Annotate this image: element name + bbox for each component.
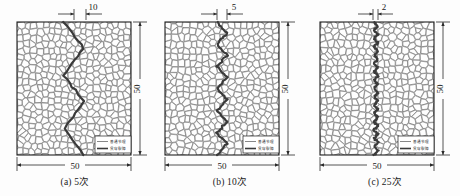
grain-cell	[210, 16, 216, 21]
grain-cell	[402, 155, 409, 161]
grain-cell	[249, 49, 256, 56]
legend-label-crack-b: 贯穿裂隙	[258, 146, 274, 151]
grain-cell	[382, 98, 390, 104]
grain-cell	[247, 16, 254, 22]
grain-cell	[18, 99, 23, 105]
grain-cell	[426, 16, 434, 22]
grain-cell	[235, 16, 241, 22]
grain-cell	[131, 136, 137, 143]
grain-cell	[398, 104, 403, 112]
grain-cell	[422, 155, 428, 161]
grain-cell	[67, 99, 73, 104]
grain-cell	[68, 125, 76, 132]
grain-cell	[260, 53, 265, 59]
grain-cell	[321, 98, 327, 105]
grain-cell	[172, 60, 178, 67]
grain-cell	[131, 112, 137, 119]
grain-cell	[423, 85, 429, 92]
grain-cell	[388, 66, 395, 73]
grain-cell	[159, 54, 164, 59]
grain-cell	[87, 143, 93, 150]
grain-cell	[48, 92, 55, 98]
bottom-dimension-label-c: 50	[373, 161, 383, 171]
grain-cell	[11, 111, 16, 120]
grain-cell	[159, 136, 165, 142]
panel-a: 10 50 50	[0, 0, 150, 196]
grain-cell	[229, 72, 236, 79]
grain-cell	[201, 85, 208, 91]
grain-cell	[162, 131, 170, 137]
grain-cell	[209, 46, 217, 54]
grain-cell	[177, 85, 184, 92]
grain-cell	[81, 28, 86, 34]
grain-cell	[159, 16, 166, 22]
grain-cell	[123, 156, 130, 161]
grain-cell	[99, 155, 107, 161]
grain-cell	[279, 67, 285, 72]
grain-cell	[183, 155, 189, 161]
legend-label-joint-b: 普通节理	[258, 139, 274, 144]
grain-cell	[279, 42, 285, 49]
grain-cell	[197, 105, 204, 112]
grain-cell	[236, 156, 243, 161]
grain-cell	[110, 156, 118, 161]
top-dimension-c	[358, 9, 393, 20]
grain-cell	[352, 105, 359, 110]
grain-cell	[240, 48, 248, 54]
grain-cell	[54, 91, 61, 96]
panel-b: 5 50 50 普通节理	[155, 0, 305, 196]
grain-cell	[179, 155, 185, 161]
grain-cell	[235, 134, 240, 142]
grain-cell	[314, 118, 322, 124]
grain-cell	[47, 157, 56, 162]
grain-cell	[54, 97, 61, 103]
grain-cell	[267, 16, 275, 22]
grain-cell	[11, 16, 17, 23]
legend-label-crack-a: 贯穿裂隙	[110, 146, 126, 151]
grain-cell	[86, 66, 94, 73]
grain-cell	[314, 136, 320, 143]
grain-cell	[234, 141, 242, 149]
grain-cell	[196, 67, 202, 71]
grain-cell	[159, 20, 165, 28]
grain-cell	[314, 92, 319, 99]
grain-cell	[434, 22, 440, 30]
grain-cell	[11, 92, 17, 101]
grain-cell	[178, 59, 184, 66]
grain-cell	[159, 98, 165, 105]
grain-cell	[61, 136, 68, 142]
grain-cell	[54, 155, 60, 161]
panel-c: 2 50 50 普通节理	[310, 0, 460, 196]
grain-cell	[314, 123, 322, 130]
grain-cell	[421, 40, 428, 46]
grain-cell	[434, 66, 440, 73]
grain-cell	[333, 90, 340, 98]
caption-c: (c) 25次	[310, 176, 460, 188]
grain-cell	[247, 80, 254, 85]
grain-cell	[356, 73, 364, 81]
grain-cell	[196, 47, 202, 54]
grain-cell	[434, 109, 440, 116]
grain-cell	[280, 124, 285, 131]
grain-cell	[435, 116, 440, 123]
right-dimension-label-b: 50	[280, 84, 290, 94]
grain-cell	[11, 32, 16, 41]
grain-cell	[314, 61, 320, 68]
grain-cell	[314, 38, 320, 48]
grain-cell	[280, 156, 286, 161]
grain-cell	[177, 91, 183, 97]
grain-cell	[402, 61, 407, 67]
grain-cell	[279, 16, 285, 22]
panel-c-svg: 2 50 50 普通节理	[310, 0, 460, 196]
grain-cell	[357, 155, 365, 161]
grain-cell	[159, 33, 166, 40]
legend-label-joint-a: 普通节理	[110, 139, 126, 144]
grain-cell	[111, 85, 118, 91]
grain-cell	[125, 103, 133, 109]
grain-cell	[54, 103, 62, 109]
grain-cell	[410, 84, 417, 92]
legend-a: 普通节理 贯穿裂隙	[95, 136, 131, 153]
grain-cell	[175, 16, 183, 21]
grain-cell	[55, 86, 62, 91]
grain-cell	[159, 129, 164, 137]
